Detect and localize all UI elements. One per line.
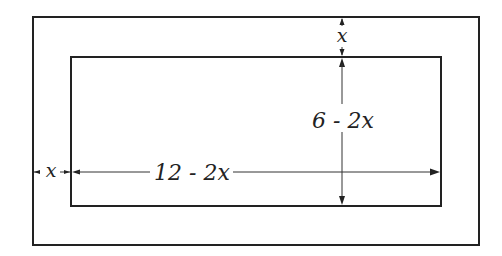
diagram-canvas: x 6 - 2x x 12 - 2x [0, 0, 502, 256]
arrow-right-icon [430, 169, 440, 176]
outer-rectangle [33, 17, 479, 245]
arrow-right-icon [64, 170, 70, 174]
top-margin-dimension: x [337, 18, 348, 56]
inner-rectangle [71, 57, 441, 206]
inner-width-dimension: 12 - 2x [72, 160, 440, 185]
inner-height-label: 6 - 2x [312, 108, 374, 133]
arrow-down-icon [339, 196, 345, 205]
arrow-left-icon [34, 170, 40, 174]
left-margin-dimension: x [34, 159, 70, 181]
left-margin-label: x [46, 159, 57, 181]
top-margin-label: x [337, 24, 348, 46]
inner-height-dimension: 6 - 2x [312, 58, 375, 205]
arrow-down-icon [340, 49, 345, 56]
inner-width-label: 12 - 2x [154, 160, 230, 185]
